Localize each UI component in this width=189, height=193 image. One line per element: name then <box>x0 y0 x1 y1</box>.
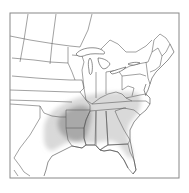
range-map <box>0 0 189 193</box>
